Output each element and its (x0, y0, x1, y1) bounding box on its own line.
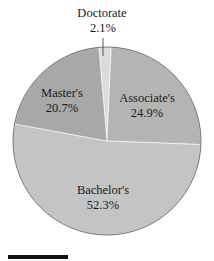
pie-chart: Doctorate 2.1% Associate's 24.9% Master'… (0, 0, 214, 261)
doctorate-percent: 2.1% (90, 21, 116, 35)
bachelor-percent: 52.3% (87, 198, 119, 212)
bachelor-label: Bachelor's (77, 183, 129, 197)
master-label: Master's (41, 86, 83, 100)
doctorate-label: Doctorate (77, 6, 127, 20)
associate-label: Associate's (119, 91, 175, 105)
scale-bar (8, 255, 68, 259)
master-percent: 20.7% (46, 101, 78, 115)
associate-percent: 24.9% (131, 106, 163, 120)
